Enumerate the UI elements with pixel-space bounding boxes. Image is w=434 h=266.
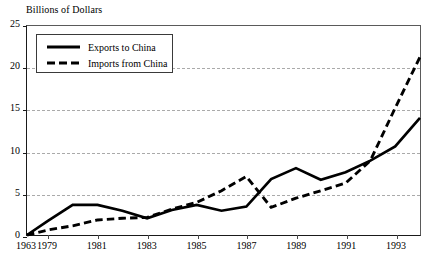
legend-box: Exports to China Imports from China — [36, 34, 173, 73]
x-axis-label-1963: 1963 — [16, 240, 36, 251]
legend-label-imports: Imports from China — [88, 58, 167, 69]
legend-item-exports: Exports to China — [37, 39, 172, 55]
x-tick-1981 — [98, 235, 99, 239]
x-tick-1979 — [48, 235, 49, 239]
chart-title: Billions of Dollars — [26, 4, 102, 15]
x-axis-label-1991: 1991 — [336, 240, 356, 251]
y-axis-label-0: 0 — [2, 229, 20, 240]
legend-label-exports: Exports to China — [88, 42, 156, 53]
legend-item-imports: Imports from China — [37, 55, 172, 71]
y-tick-0 — [23, 237, 27, 238]
legend-swatch-solid-icon — [46, 41, 81, 53]
y-axis-label-20: 20 — [2, 60, 20, 71]
chart-container: Billions of Dollars Exports to China — [0, 0, 434, 266]
x-tick-1993 — [397, 235, 398, 239]
y-axis-label-15: 15 — [2, 102, 20, 113]
plot-inner: Exports to China Imports from China — [27, 26, 420, 235]
x-tick-1987 — [247, 235, 248, 239]
plot-area: Exports to China Imports from China — [26, 25, 421, 236]
line-imports-from-china — [27, 57, 420, 235]
x-tick-1985 — [198, 235, 199, 239]
x-axis-label-1987: 1987 — [236, 240, 256, 251]
x-axis-label-1989: 1989 — [286, 240, 306, 251]
x-tick-1983 — [148, 235, 149, 239]
x-tick-1989 — [297, 235, 298, 239]
y-axis-label-10: 10 — [2, 145, 20, 156]
x-axis-label-1979: 1979 — [37, 240, 57, 251]
x-axis-label-1985: 1985 — [187, 240, 207, 251]
y-axis-label-5: 5 — [2, 187, 20, 198]
y-axis-label-25: 25 — [2, 18, 20, 29]
x-axis-label-1981: 1981 — [87, 240, 107, 251]
x-axis-label-1993: 1993 — [386, 240, 406, 251]
line-exports-to-china — [27, 118, 420, 235]
legend-swatch-dashed-icon — [46, 57, 81, 69]
x-axis-label-1983: 1983 — [137, 240, 157, 251]
x-tick-1991 — [347, 235, 348, 239]
